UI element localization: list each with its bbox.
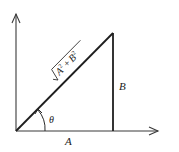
vertical-side-label: B bbox=[119, 80, 126, 92]
hypotenuse-label: A2+B2 bbox=[47, 40, 89, 82]
triangle-diagram: A2+B2 B A θ bbox=[0, 0, 179, 152]
hypotenuse-line bbox=[16, 33, 113, 131]
horizontal-side-label: A bbox=[64, 135, 72, 147]
angle-label: θ bbox=[49, 114, 54, 125]
svg-text:A2+B2: A2+B2 bbox=[52, 50, 80, 78]
